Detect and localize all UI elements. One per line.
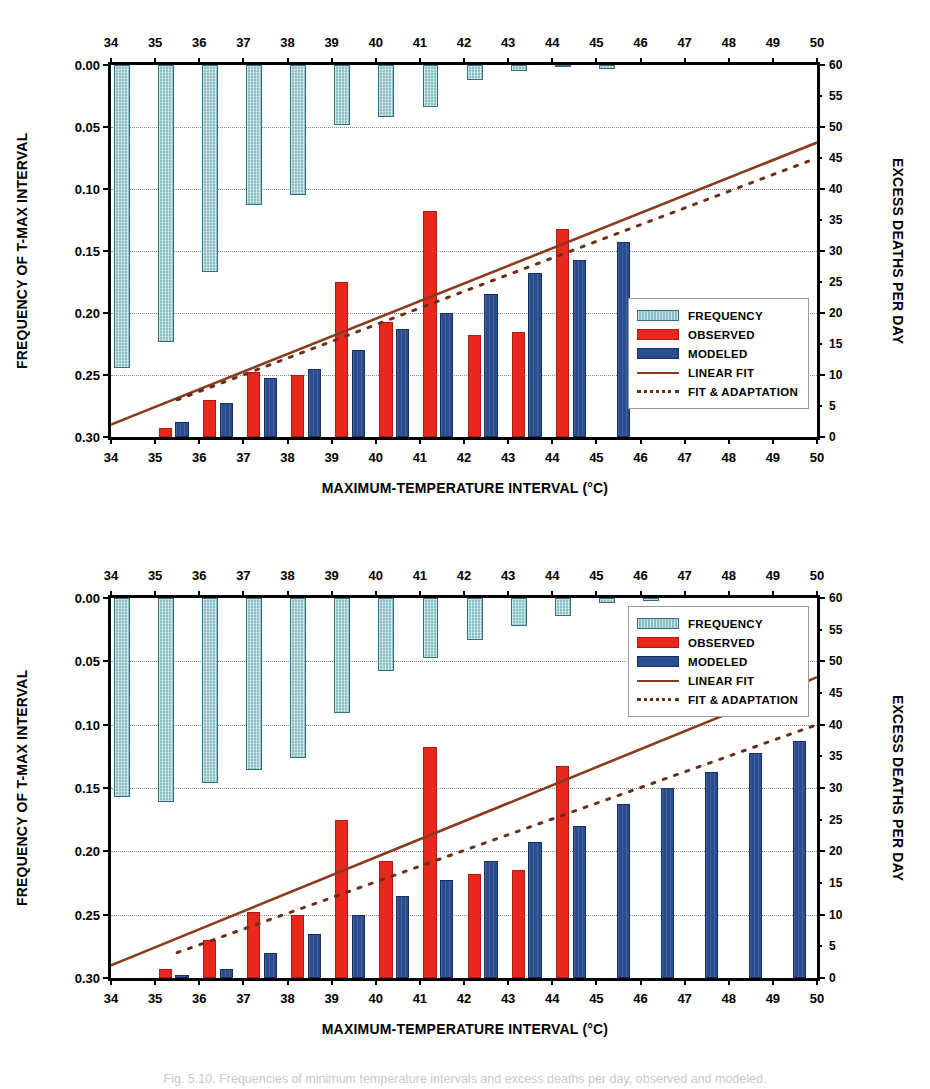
legend-swatch-mod-icon xyxy=(637,348,679,359)
x-tick-mark xyxy=(816,437,818,444)
y-tick-label-left: 0.00 xyxy=(75,58,100,73)
bar-observed xyxy=(335,820,348,978)
bar-observed xyxy=(379,861,392,978)
y-tick-mark-right xyxy=(817,64,825,66)
y-tick-mark-left xyxy=(103,850,111,852)
x-tick-label-bottom: 37 xyxy=(220,991,266,1006)
x-tick-mark xyxy=(331,58,333,65)
legend-swatch-dash-icon xyxy=(637,390,679,393)
y-axis-title-left: FREQUENCY OF T-MAX INTERVAL xyxy=(14,601,30,975)
legend-swatch-line-icon xyxy=(637,680,679,682)
y-tick-label-right: 10 xyxy=(829,368,842,382)
x-tick-mark xyxy=(595,591,597,598)
x-tick-label-bottom: 46 xyxy=(618,991,664,1006)
bar-modeled xyxy=(220,969,233,979)
x-tick-label-top: 44 xyxy=(529,568,575,583)
legend-swatch-obs-icon xyxy=(637,329,679,340)
y-tick-label-right: 0 xyxy=(829,430,836,444)
legend-bottom: FREQUENCYOBSERVEDMODELEDLINEAR FITFIT & … xyxy=(628,606,809,717)
y-tick-mark-right xyxy=(817,597,825,599)
bar-modeled xyxy=(308,369,321,437)
figure-root: FREQUENCYOBSERVEDMODELEDLINEAR FITFIT & … xyxy=(0,0,930,1089)
x-tick-label-bottom: 49 xyxy=(750,450,796,465)
bar-modeled xyxy=(705,772,718,978)
y-tick-mark-right xyxy=(817,374,825,376)
x-tick-mark xyxy=(551,978,553,985)
x-tick-label-bottom: 34 xyxy=(88,450,134,465)
y-tick-mark-right xyxy=(817,126,825,128)
x-tick-label-top: 35 xyxy=(132,35,178,50)
x-tick-label-top: 49 xyxy=(750,35,796,50)
bar-modeled xyxy=(396,329,409,438)
bar-frequency xyxy=(202,65,218,272)
bar-modeled xyxy=(661,788,674,978)
bar-frequency xyxy=(423,65,439,107)
bar-frequency xyxy=(202,598,218,783)
y-tick-mark-left xyxy=(103,436,111,438)
bar-modeled xyxy=(484,861,497,978)
x-tick-mark xyxy=(375,978,377,985)
x-tick-label-bottom: 40 xyxy=(353,450,399,465)
x-tick-mark xyxy=(463,591,465,598)
x-tick-label-top: 41 xyxy=(397,35,443,50)
x-tick-label-bottom: 35 xyxy=(132,450,178,465)
x-tick-mark xyxy=(154,978,156,985)
bar-modeled xyxy=(528,273,541,437)
x-tick-label-bottom: 41 xyxy=(397,991,443,1006)
y-tick-mark-right xyxy=(817,188,825,190)
x-tick-label-bottom: 42 xyxy=(441,991,487,1006)
bar-modeled xyxy=(573,260,586,437)
x-tick-mark xyxy=(772,58,774,65)
y-tick-label-left: 0.20 xyxy=(75,844,100,859)
x-tick-label-top: 35 xyxy=(132,568,178,583)
x-tick-mark xyxy=(684,437,686,444)
y-tick-label-right: 55 xyxy=(829,623,842,637)
x-tick-mark xyxy=(728,58,730,65)
y-axis-title-left: FREQUENCY OF T-MAX INTERVAL xyxy=(14,68,30,434)
x-tick-label-bottom: 38 xyxy=(265,991,311,1006)
legend-label: MODELED xyxy=(688,656,748,668)
y-tick-mark-right xyxy=(817,977,825,979)
x-tick-mark xyxy=(154,58,156,65)
x-tick-label-bottom: 39 xyxy=(309,991,355,1006)
bar-observed xyxy=(512,332,525,437)
y-tick-mark-right xyxy=(817,945,822,947)
x-tick-mark xyxy=(419,591,421,598)
x-tick-label-bottom: 50 xyxy=(794,450,840,465)
y-tick-label-left: 0.25 xyxy=(75,907,100,922)
x-axis-title-top-panel: MAXIMUM-TEMPERATURE INTERVAL (°C) xyxy=(0,480,930,496)
bar-modeled xyxy=(749,753,762,978)
legend-item: FIT & ADAPTATION xyxy=(637,690,798,709)
y-tick-label-right: 25 xyxy=(829,275,842,289)
y-tick-label-left: 0.25 xyxy=(75,368,100,383)
x-tick-mark xyxy=(728,591,730,598)
y-tick-label-right: 30 xyxy=(829,244,842,258)
y-tick-mark-right xyxy=(817,629,822,631)
x-tick-label-bottom: 36 xyxy=(176,450,222,465)
x-tick-mark xyxy=(595,437,597,444)
legend-item: OBSERVED xyxy=(637,325,798,344)
x-tick-label-top: 40 xyxy=(353,568,399,583)
chart-panel-bottom: FREQUENCYOBSERVEDMODELEDLINEAR FITFIT & … xyxy=(0,545,930,1030)
bar-observed xyxy=(203,400,216,437)
legend-label: FIT & ADAPTATION xyxy=(688,386,798,398)
y-tick-label-right: 35 xyxy=(829,213,842,227)
y-tick-mark-left xyxy=(103,374,111,376)
y-axis-title-right: EXCESS DEATHS PER DAY xyxy=(890,601,906,975)
x-tick-label-top: 34 xyxy=(88,35,134,50)
legend-label: OBSERVED xyxy=(688,637,755,649)
x-tick-label-top: 43 xyxy=(485,568,531,583)
x-tick-label-top: 42 xyxy=(441,568,487,583)
x-tick-mark xyxy=(331,437,333,444)
y-tick-label-left: 0.15 xyxy=(75,244,100,259)
bar-frequency xyxy=(158,598,174,802)
bar-frequency xyxy=(643,598,659,601)
x-tick-label-top: 37 xyxy=(220,568,266,583)
x-tick-label-bottom: 49 xyxy=(750,991,796,1006)
x-tick-label-bottom: 44 xyxy=(529,991,575,1006)
legend-item: FREQUENCY xyxy=(637,306,798,325)
y-tick-label-right: 35 xyxy=(829,749,842,763)
x-tick-mark xyxy=(463,437,465,444)
chart-panel-top: FREQUENCYOBSERVEDMODELEDLINEAR FITFIT & … xyxy=(0,0,930,545)
figure-caption: Fig. 5.10. Frequencies of minimum temper… xyxy=(0,1072,930,1086)
